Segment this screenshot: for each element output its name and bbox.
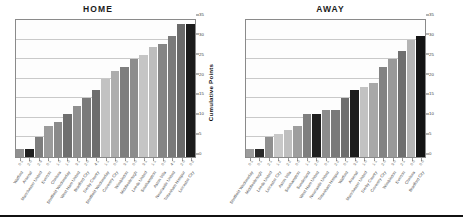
- match-score-label: 0-2: [188, 159, 195, 166]
- y-axis-tick-label: 0: [199, 151, 201, 156]
- y-axis-tick-mark: [196, 153, 199, 154]
- bar: [388, 59, 397, 157]
- match-score-label: 2-1: [266, 159, 273, 166]
- figure-container: HOME Cumulative Points 05101520253035 0-…: [0, 0, 463, 220]
- bar: [16, 149, 25, 157]
- bar: [111, 71, 120, 157]
- y-axis-tick-mark: [196, 14, 199, 15]
- match-score-label: 2-3: [36, 159, 43, 166]
- chart-panel-home: HOME Cumulative Points 05101520253035 0-…: [0, 0, 232, 200]
- match-score-label: 0-1: [323, 159, 330, 166]
- match-score-label: 0-0: [409, 159, 416, 166]
- match-score-label: 0-1: [45, 159, 52, 166]
- y-axis-tick-mark: [196, 113, 199, 114]
- match-score-label: 1-0: [361, 159, 368, 166]
- chart-panel-away: AWAY 05101520253035 0-1Sheffield Wednesd…: [232, 0, 463, 200]
- y-axis-away: 05101520253035: [427, 19, 447, 158]
- bar: [341, 98, 350, 157]
- bar: [101, 79, 110, 157]
- match-score-label: 2-0: [83, 159, 90, 166]
- chart-title-home: HOME: [0, 4, 232, 14]
- bar: [35, 137, 44, 157]
- y-axis-tick-mark: [426, 34, 429, 35]
- x-axis-label-group: 0-2Leicester City: [187, 159, 197, 200]
- x-axis-label-group: 0-0Bradford City: [417, 159, 427, 200]
- y-axis-tick-label: 0: [429, 151, 431, 156]
- y-axis-tick-mark: [196, 74, 199, 75]
- match-score-label: 3-1: [141, 159, 148, 166]
- y-axis-tick-label: 20: [429, 71, 434, 76]
- y-axis-tick-mark: [196, 133, 199, 134]
- match-score-label: 2-0: [26, 159, 33, 166]
- bar: [149, 47, 158, 157]
- bar: [416, 36, 424, 157]
- bar: [120, 67, 129, 157]
- match-score-label: 3-1: [121, 159, 128, 166]
- bar: [82, 98, 91, 157]
- match-score-label: 1-1: [371, 159, 378, 166]
- bar: [73, 106, 82, 157]
- y-axis-tick-mark: [426, 14, 429, 15]
- y-axis-tick-label: 10: [199, 111, 204, 116]
- bar: [265, 137, 274, 157]
- match-score-label: 2-0: [179, 159, 186, 166]
- match-score-label: 0-1: [342, 159, 349, 166]
- match-score-label: 1-1: [150, 159, 157, 166]
- match-score-label: 2-2: [285, 159, 292, 166]
- bar: [186, 24, 194, 157]
- match-score-label: 4-1: [93, 159, 100, 166]
- y-axis-tick-label: 5: [429, 131, 431, 136]
- y-axis-tick-label: 10: [429, 111, 434, 116]
- match-score-label: 0-1: [17, 159, 24, 166]
- match-score-label: 1-1: [102, 159, 109, 166]
- match-score-label: 1-1: [304, 159, 311, 166]
- match-score-label: 0-0: [160, 159, 167, 166]
- bar: [54, 122, 63, 157]
- bar: [398, 51, 407, 157]
- bar: [177, 24, 186, 157]
- y-axis-tick-label: 35: [429, 12, 434, 17]
- y-axis-tick-mark: [426, 74, 429, 75]
- plot-area-away: [245, 19, 426, 158]
- y-axis-tick-label: 35: [199, 12, 204, 17]
- y-axis-tick-label: 30: [429, 31, 434, 36]
- y-axis-tick-mark: [196, 34, 199, 35]
- match-score-label: 2-2: [332, 159, 339, 166]
- match-score-label: 1-0: [55, 159, 62, 166]
- y-axis-tick-label: 15: [199, 91, 204, 96]
- y-axis-tick-mark: [426, 113, 429, 114]
- plot-area-home: [15, 19, 196, 158]
- match-score-label: 3-0: [390, 159, 397, 166]
- match-score-label: 0-1: [247, 159, 254, 166]
- bar: [130, 59, 139, 157]
- bar: [63, 114, 72, 157]
- match-score-label: 0-1: [256, 159, 263, 166]
- x-axis-labels-away: 0-1Sheffield Wednesday0-1Middlesbrough2-…: [245, 159, 426, 200]
- y-axis-tick-mark: [426, 93, 429, 94]
- y-axis-title-home: Cumulative Points: [207, 63, 214, 120]
- bar: [303, 114, 312, 157]
- match-score-label: 2-0: [313, 159, 320, 166]
- y-axis-tick-label: 30: [199, 31, 204, 36]
- bar: [246, 149, 255, 157]
- bar: [331, 110, 340, 157]
- bar: [44, 126, 53, 157]
- bar-series-home: [16, 20, 195, 157]
- match-score-label: 0-0: [131, 159, 138, 166]
- bar: [293, 126, 302, 157]
- bar: [407, 40, 416, 157]
- bar: [168, 36, 177, 157]
- match-score-label: 1-2: [275, 159, 282, 166]
- match-score-label: 4-1: [169, 159, 176, 166]
- y-axis-tick-label: 5: [199, 131, 201, 136]
- match-score-label: 0-0: [294, 159, 301, 166]
- bar: [92, 90, 101, 157]
- bar: [274, 134, 283, 157]
- bar: [158, 44, 167, 158]
- bar-series-away: [246, 20, 425, 157]
- match-score-label: 0-0: [112, 159, 119, 166]
- y-axis-tick-label: 25: [199, 51, 204, 56]
- bar: [360, 87, 369, 157]
- y-axis-tick-mark: [196, 93, 199, 94]
- y-axis-tick-mark: [426, 54, 429, 55]
